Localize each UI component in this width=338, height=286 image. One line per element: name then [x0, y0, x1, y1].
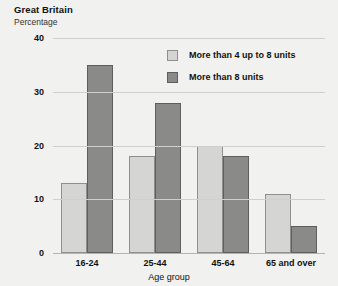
legend-swatch-icon: [167, 72, 178, 83]
legend-swatch-icon: [167, 50, 178, 61]
gridline-40: [53, 38, 325, 39]
bar: [87, 65, 113, 253]
x-axis-title: Age group: [0, 272, 338, 282]
bar: [155, 103, 181, 254]
x-tick-label: 16-24: [75, 258, 98, 268]
bar: [265, 194, 291, 253]
chart-title: Great Britain: [14, 4, 73, 15]
y-tick-label-10: 10: [10, 194, 44, 204]
gridline-10: [53, 199, 325, 200]
legend-item: More than 4 up to 8 units: [167, 44, 296, 66]
legend-label: More than 8 units: [189, 72, 264, 82]
bar: [129, 156, 155, 253]
y-tick-label-0: 0: [10, 248, 44, 258]
bar: [61, 183, 87, 253]
y-tick-label-20: 20: [10, 141, 44, 151]
legend-label: More than 4 up to 8 units: [189, 50, 296, 60]
y-tick-label-30: 30: [10, 87, 44, 97]
x-tick-label: 65 and over: [266, 258, 316, 268]
gridline-20: [53, 146, 325, 147]
x-tick-label: 45-64: [211, 258, 234, 268]
gridline-0: [53, 253, 325, 254]
bar: [291, 226, 317, 253]
gridline-30: [53, 92, 325, 93]
bar: [223, 156, 249, 253]
chart-legend: More than 4 up to 8 unitsMore than 8 uni…: [167, 44, 296, 88]
y-axis-tick-labels: 010203040: [10, 38, 44, 253]
bar-chart: Great Britain Percentage 010203040 More …: [0, 0, 338, 286]
legend-item: More than 8 units: [167, 66, 296, 88]
y-tick-label-40: 40: [10, 33, 44, 43]
x-tick-label: 25-44: [143, 258, 166, 268]
chart-subtitle: Percentage: [14, 17, 57, 27]
